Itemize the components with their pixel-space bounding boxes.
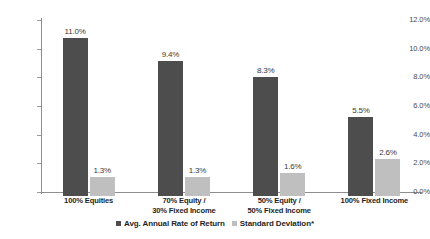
bar-return[interactable]: 11.0% <box>63 38 88 196</box>
bar-stddev[interactable]: 2.6% <box>375 159 400 196</box>
category-label: 70% Equity / 30% Fixed Income <box>136 196 231 215</box>
plot-area: 11.0%1.3%9.4%1.3%8.3%1.6%5.5%2.6% <box>41 18 421 194</box>
category-label: 100% Fixed Income <box>327 196 422 206</box>
legend-swatch-icon <box>232 221 237 226</box>
bar-rect <box>253 77 278 196</box>
legend-item[interactable]: Standard Deviation* <box>232 219 314 228</box>
bar-value-label: 2.6% <box>379 148 396 157</box>
bar-rect <box>280 173 305 196</box>
legend-item[interactable]: Avg. Annual Rate of Return <box>116 219 225 228</box>
bar-value-label: 8.3% <box>257 66 274 75</box>
bar-rect <box>90 177 115 196</box>
bar-stddev[interactable]: 1.3% <box>90 177 115 196</box>
legend-swatch-icon <box>116 221 121 226</box>
bar-value-label: 11.0% <box>65 27 86 36</box>
bar-return[interactable]: 8.3% <box>253 77 278 196</box>
bar-return[interactable]: 9.4% <box>158 61 183 196</box>
bar-rect <box>158 61 183 196</box>
bar-value-label: 5.5% <box>352 106 369 115</box>
bar-value-label: 1.3% <box>189 166 206 175</box>
chart-legend: Avg. Annual Rate of ReturnStandard Devia… <box>0 219 430 228</box>
bar-rect <box>375 159 400 196</box>
category-label: 100% Equities <box>41 196 136 206</box>
bar-rect <box>63 38 88 196</box>
category-label: 50% Equity / 50% Fixed Income <box>232 196 327 215</box>
bar-value-label: 9.4% <box>162 50 179 59</box>
bar-value-label: 1.3% <box>93 166 110 175</box>
legend-label: Avg. Annual Rate of Return <box>124 219 225 228</box>
bar-stddev[interactable]: 1.3% <box>185 177 210 196</box>
bar-rect <box>348 117 373 196</box>
bar-value-label: 1.6% <box>284 162 301 171</box>
bar-return[interactable]: 5.5% <box>348 117 373 196</box>
bar-rect <box>185 177 210 196</box>
bar-chart: 12.0%10.0%8.0%6.0%4.0%2.0%0.0% 11.0%1.3%… <box>0 0 430 239</box>
bar-stddev[interactable]: 1.6% <box>280 173 305 196</box>
legend-label: Standard Deviation* <box>240 219 314 228</box>
